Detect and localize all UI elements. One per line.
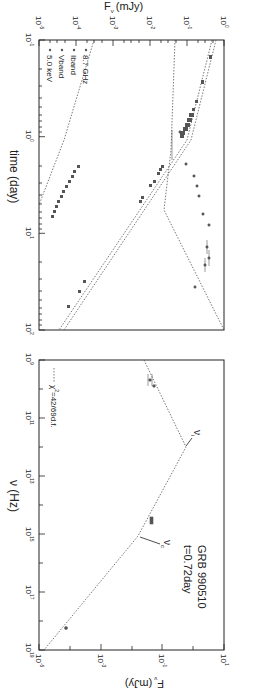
svg-text:101: 101 (219, 654, 230, 666)
spectrum-x-tick-labels: 109 1011 1013 1015 1017 1019 (24, 353, 35, 658)
chi-squared-label: χ2=42/69d.f. (49, 385, 60, 428)
svg-text:101: 101 (24, 227, 35, 239)
legend-item-radio: 8.7 GHz (81, 49, 90, 85)
grb-title: GRB 990510 (196, 545, 208, 609)
svg-text:Iband: Iband (69, 55, 78, 75)
nu-i-label: νi (190, 430, 203, 436)
nu-i-arrow (186, 438, 192, 446)
spectrum-x-label: ν (Hz) (7, 480, 21, 512)
figure-canvas: 10-1 100 101 102 time (day) 100 10-1 10-… (0, 0, 264, 689)
spectrum-y-tick-labels: 10-5 10-3 10-1 101 (34, 654, 230, 668)
spectrum-panel: 109 1011 1013 1015 1017 1019 ν (Hz) 10-5… (7, 353, 230, 689)
light-curve-y-tick-labels: 100 10-1 10-2 10-3 10-4 10-5 (34, 16, 230, 30)
spectrum-annotations: GRB 990510 t=0.72day νi νc χ2=42/69d.f. (49, 368, 208, 609)
spectrum-model-curve (44, 360, 186, 650)
spectrum-y-ticks (39, 644, 224, 650)
nu-c-arrow (140, 537, 160, 544)
light-curve-panel: 10-1 100 101 102 time (day) 100 10-1 10-… (7, 0, 230, 335)
svg-text:10-4: 10-4 (71, 16, 82, 30)
svg-text:109: 109 (24, 353, 35, 365)
legend-item-iband: Iband (69, 49, 78, 75)
svg-text:1017: 1017 (24, 585, 35, 600)
light-curve-y-label: Fν(mJy) (104, 0, 143, 14)
light-curve-y-ticks (39, 40, 224, 46)
svg-text:10-3: 10-3 (96, 654, 107, 668)
svg-text:1011: 1011 (24, 411, 35, 425)
legend-item-xray: 5.0 keV (45, 49, 54, 83)
light-curve-x-ticks (39, 40, 45, 330)
svg-text:10-5: 10-5 (34, 16, 45, 30)
svg-text:10-1: 10-1 (157, 654, 168, 668)
optical-points (67, 55, 212, 308)
grb-time: t=0.72day (182, 545, 194, 594)
light-curve-x-tick-labels: 10-1 100 101 102 (24, 33, 35, 335)
spectrum-x-ticks (39, 360, 45, 650)
svg-text:10-2: 10-2 (145, 16, 156, 30)
svg-text:100: 100 (24, 130, 35, 142)
svg-text:102: 102 (24, 323, 35, 335)
svg-text:8.7 GHz: 8.7 GHz (81, 55, 90, 84)
light-curve-legend: 8.7 GHz Iband Vband 5.0 keV (45, 49, 90, 85)
xray-points (51, 165, 80, 218)
spectrum-points (65, 374, 156, 630)
figure-svg: 10-1 100 101 102 time (day) 100 10-1 10-… (0, 0, 264, 689)
spectrum-y-label: Fν(mJy) (125, 676, 164, 689)
svg-text:10-5: 10-5 (34, 654, 45, 668)
svg-text:5.0 keV: 5.0 keV (45, 55, 54, 83)
svg-text:10-1: 10-1 (24, 33, 35, 47)
svg-text:1015: 1015 (24, 527, 35, 542)
svg-text:Vband: Vband (57, 55, 66, 78)
svg-text:10-1: 10-1 (182, 16, 193, 30)
svg-text:100: 100 (219, 16, 230, 28)
light-curve-x-label: time (day) (7, 150, 21, 203)
legend-item-vband: Vband (57, 49, 66, 78)
nu-c-label: νc (160, 540, 173, 548)
svg-text:1013: 1013 (24, 469, 35, 484)
svg-text:10-3: 10-3 (108, 16, 119, 30)
